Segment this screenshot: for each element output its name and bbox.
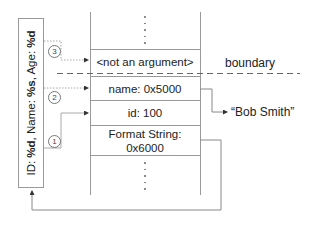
stack-row-format-string: Format String: 0x6000: [90, 125, 200, 155]
stack-row-name: name: 0x5000: [90, 76, 200, 100]
stack-row-bottom-border: [90, 155, 200, 156]
pointer-2-badge: 2: [48, 91, 61, 104]
name-target-label: “Bob Smith”: [231, 105, 294, 119]
stack-row-label: <not an argument>: [96, 55, 193, 69]
stack-row-label: name: 0x5000: [109, 82, 182, 96]
stack-row-not-argument: <not an argument>: [90, 49, 200, 73]
stack-row-label: id: 100: [128, 106, 163, 120]
name-pointer-arrow: [200, 89, 227, 112]
pointer-3-badge: 3: [48, 45, 61, 58]
stack-top-ellipsis: [144, 16, 145, 49]
format-string-text: ID: %d, Name: %s, Age: %d: [25, 30, 37, 175]
stack-row-label-2: 0x6000: [126, 141, 164, 155]
stack-row-label: Format String:: [109, 127, 182, 141]
format-string-box: ID: %d, Name: %s, Age: %d: [18, 18, 44, 188]
stack-bottom-ellipsis: [144, 162, 145, 195]
boundary-label: boundary: [225, 56, 275, 70]
pointer-1-badge: 1: [48, 135, 61, 148]
stack-row-id: id: 100: [90, 100, 200, 125]
